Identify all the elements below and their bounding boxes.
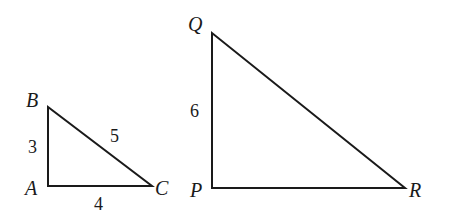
- vertex-label-p: P: [190, 180, 202, 200]
- side-label-pq: 6: [190, 102, 199, 120]
- side-label-ac: 4: [94, 195, 103, 213]
- geometry-figure: B A C 3 4 5 Q P R 6: [0, 0, 449, 223]
- triangle-abc-outline: [48, 107, 152, 186]
- vertex-label-c: C: [155, 178, 168, 198]
- vertex-label-q: Q: [188, 14, 202, 34]
- triangles-canvas: [0, 0, 449, 223]
- vertex-label-a: A: [25, 178, 37, 198]
- side-label-bc: 5: [110, 127, 119, 145]
- triangle-abc-polygon: [48, 107, 152, 186]
- vertex-label-b: B: [26, 90, 38, 110]
- triangle-pqr-outline: [212, 33, 405, 188]
- side-label-ab: 3: [28, 138, 37, 156]
- vertex-label-r: R: [409, 180, 421, 200]
- triangle-pqr-polygon: [212, 33, 405, 188]
